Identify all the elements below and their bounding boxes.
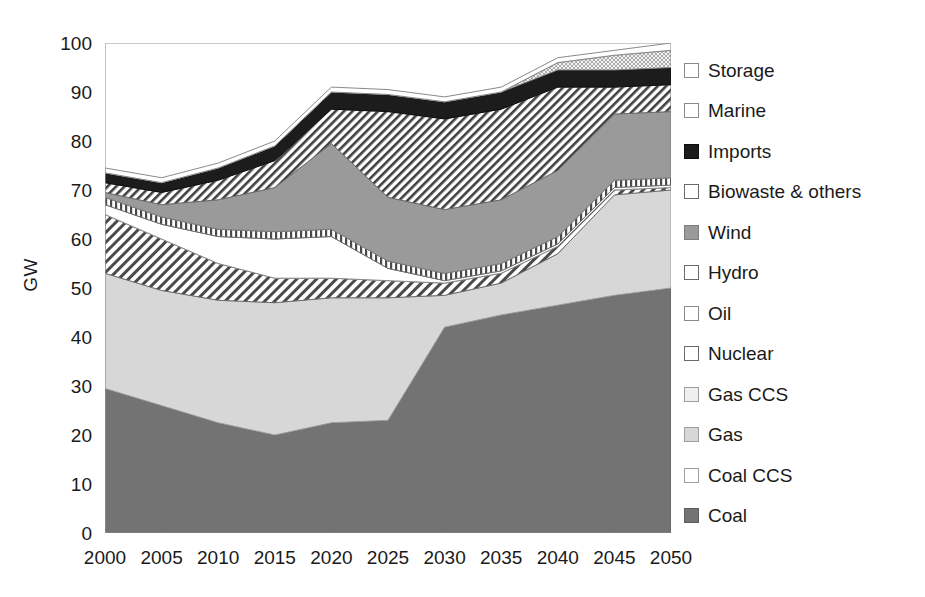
legend-swatch-icon bbox=[684, 184, 699, 199]
legend-label: Coal CCS bbox=[708, 466, 792, 485]
y-tick-label: 20 bbox=[34, 426, 92, 445]
x-axis-ticks: 2000200520102015202020252030203520402045… bbox=[105, 548, 671, 578]
y-tick-label: 70 bbox=[34, 181, 92, 200]
y-tick-label: 0 bbox=[34, 524, 92, 543]
legend-item-hydro[interactable]: Hydro bbox=[684, 253, 922, 294]
legend-swatch-icon bbox=[684, 306, 699, 321]
legend-swatch-icon bbox=[684, 265, 699, 280]
x-tick-label: 2025 bbox=[367, 548, 409, 567]
legend-swatch-icon bbox=[684, 468, 699, 483]
legend-item-imports[interactable]: Imports bbox=[684, 131, 922, 172]
legend-item-storage[interactable]: Storage bbox=[684, 50, 922, 91]
legend-label: Nuclear bbox=[708, 344, 773, 363]
legend-swatch-icon bbox=[684, 427, 699, 442]
legend-item-oil[interactable]: Oil bbox=[684, 293, 922, 334]
y-tick-label: 30 bbox=[34, 377, 92, 396]
legend-label: Storage bbox=[708, 61, 775, 80]
legend-label: Oil bbox=[708, 304, 731, 323]
legend-swatch-icon bbox=[684, 508, 699, 523]
legend-label: Imports bbox=[708, 142, 771, 161]
legend-swatch-icon bbox=[684, 387, 699, 402]
legend-item-wind[interactable]: Wind bbox=[684, 212, 922, 253]
x-tick-label: 2045 bbox=[593, 548, 635, 567]
y-tick-label: 40 bbox=[34, 328, 92, 347]
legend-item-marine[interactable]: Marine bbox=[684, 91, 922, 132]
legend-swatch-icon bbox=[684, 63, 699, 78]
legend-item-coal-ccs[interactable]: Coal CCS bbox=[684, 455, 922, 496]
y-tick-label: 50 bbox=[34, 279, 92, 298]
legend-item-coal[interactable]: Coal bbox=[684, 496, 922, 537]
legend-label: Gas bbox=[708, 425, 743, 444]
y-tick-label: 90 bbox=[34, 83, 92, 102]
x-tick-label: 2000 bbox=[84, 548, 126, 567]
y-axis-ticks: 0102030405060708090100 bbox=[30, 0, 92, 597]
legend-item-gas-ccs[interactable]: Gas CCS bbox=[684, 374, 922, 415]
legend-swatch-icon bbox=[684, 103, 699, 118]
chart-legend: StorageMarineImportsBiowaste & othersWin… bbox=[684, 50, 922, 536]
legend-label: Gas CCS bbox=[708, 385, 788, 404]
x-tick-label: 2015 bbox=[254, 548, 296, 567]
stacked-area-chart: GW 0102030405060708090100 bbox=[0, 0, 925, 597]
y-tick-label: 10 bbox=[34, 475, 92, 494]
legend-label: Marine bbox=[708, 101, 766, 120]
legend-item-biowaste-others[interactable]: Biowaste & others bbox=[684, 172, 922, 213]
x-tick-label: 2040 bbox=[537, 548, 579, 567]
y-tick-label: 80 bbox=[34, 132, 92, 151]
legend-label: Coal bbox=[708, 506, 747, 525]
x-tick-label: 2030 bbox=[423, 548, 465, 567]
x-tick-label: 2020 bbox=[310, 548, 352, 567]
area-series-svg bbox=[105, 43, 671, 533]
y-tick-label: 100 bbox=[34, 34, 92, 53]
legend-swatch-icon bbox=[684, 225, 699, 240]
legend-label: Biowaste & others bbox=[708, 182, 861, 201]
legend-label: Hydro bbox=[708, 263, 759, 282]
legend-label: Wind bbox=[708, 223, 751, 242]
x-tick-label: 2035 bbox=[480, 548, 522, 567]
x-tick-label: 2005 bbox=[140, 548, 182, 567]
x-tick-label: 2010 bbox=[197, 548, 239, 567]
legend-item-nuclear[interactable]: Nuclear bbox=[684, 334, 922, 375]
y-tick-label: 60 bbox=[34, 230, 92, 249]
series-layers bbox=[105, 43, 671, 533]
legend-swatch-icon bbox=[684, 346, 699, 361]
legend-swatch-icon bbox=[684, 144, 699, 159]
x-tick-label: 2050 bbox=[650, 548, 692, 567]
legend-item-gas[interactable]: Gas bbox=[684, 415, 922, 456]
plot-area bbox=[105, 43, 671, 533]
